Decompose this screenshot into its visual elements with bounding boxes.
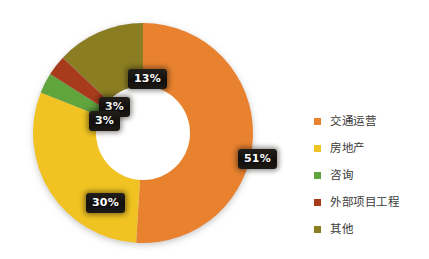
legend-item-label: 交通运营: [330, 116, 376, 128]
legend-item[interactable]: 咨询: [314, 162, 399, 189]
legend-item-label: 房地产: [330, 143, 365, 155]
legend-swatch-icon: [314, 226, 321, 233]
donut-chart-plot-area: 51% 30% 3% 3% 13%: [33, 23, 253, 243]
slice-label-consulting: 3%: [89, 111, 120, 131]
slice-label-transport: 51%: [238, 149, 277, 169]
chart-legend: 交通运营房地产咨询外部项目工程其他: [314, 108, 399, 243]
legend-swatch-icon: [314, 145, 321, 152]
legend-item-label: 咨询: [330, 170, 353, 182]
legend-item[interactable]: 房地产: [314, 135, 399, 162]
legend-item[interactable]: 其他: [314, 216, 399, 243]
legend-item[interactable]: 外部项目工程: [314, 189, 399, 216]
legend-swatch-icon: [314, 172, 321, 179]
legend-swatch-icon: [314, 118, 321, 125]
legend-item[interactable]: 交通运营: [314, 108, 399, 135]
donut-chart-figure: 51% 30% 3% 3% 13% 交通运营房地产咨询外部项目工程其他: [0, 0, 429, 259]
slice-label-realestate: 30%: [86, 193, 125, 213]
legend-item-label: 其他: [330, 224, 353, 236]
legend-item-label: 外部项目工程: [330, 197, 399, 209]
slice-label-other: 13%: [128, 69, 167, 89]
legend-swatch-icon: [314, 199, 321, 206]
donut-svg: [33, 23, 253, 243]
